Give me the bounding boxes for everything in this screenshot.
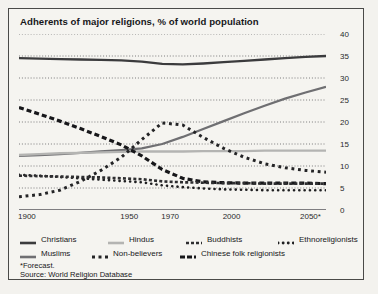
- y-axis-tick-label: 20: [340, 118, 349, 127]
- y-axis-tick-label: 25: [340, 96, 349, 105]
- legend-item: Chinese folk religionists: [180, 246, 285, 260]
- chart-canvas: [19, 34, 326, 210]
- chart-title: Adherents of major religions, % of world…: [20, 16, 259, 27]
- legend-label: Buddhists: [207, 235, 242, 244]
- y-axis-tick-label: 5: [340, 184, 344, 193]
- legend-label: Muslims: [41, 249, 70, 258]
- legend-swatch-icon: [20, 248, 36, 258]
- legend-item: Ethnoreligionists: [278, 232, 358, 246]
- x-axis-tick-label: 2000: [223, 212, 241, 221]
- chart-legend: ChristiansHindusBuddhistsEthnoreligionis…: [20, 232, 356, 260]
- legend-swatch-icon: [92, 248, 108, 258]
- legend-swatch-icon: [180, 248, 196, 258]
- legend-label: Ethnoreligionists: [299, 235, 358, 244]
- legend-row-2: MuslimsNon-believersChinese folk religio…: [20, 246, 356, 260]
- legend-item: Buddhists: [186, 232, 242, 246]
- legend-swatch-icon: [186, 234, 202, 244]
- series-line-christians: [19, 56, 326, 64]
- y-axis-tick-label: 10: [340, 162, 349, 171]
- series-line-chinese-folk-religionists: [19, 107, 326, 183]
- legend-item: Muslims: [20, 246, 70, 260]
- y-axis-tick-label: 15: [340, 140, 349, 149]
- legend-swatch-icon: [278, 234, 294, 244]
- plot-area: [19, 34, 326, 210]
- legend-item: Non-believers: [92, 246, 162, 260]
- legend-row-1: ChristiansHindusBuddhistsEthnoreligionis…: [20, 232, 356, 246]
- legend-item: Christians: [20, 232, 77, 246]
- footnote-source: Source: World Religion Database: [20, 270, 132, 279]
- footnote-forecast: *Forecast.: [20, 261, 55, 270]
- x-axis-tick-label: 2050*: [300, 212, 321, 221]
- x-axis-tick-label: 1900: [18, 212, 36, 221]
- series-line-buddhists: [19, 176, 326, 184]
- x-axis-tick-label: 1970: [161, 212, 179, 221]
- legend-label: Christians: [41, 235, 77, 244]
- y-axis-tick-label: 0: [340, 206, 344, 215]
- y-axis-tick-label: 30: [340, 74, 349, 83]
- y-axis-tick-label: 35: [340, 52, 349, 61]
- chart-figure: Adherents of major religions, % of world…: [0, 0, 378, 294]
- legend-swatch-icon: [20, 234, 36, 244]
- legend-swatch-icon: [108, 234, 124, 244]
- legend-label: Non-believers: [113, 249, 162, 258]
- legend-label: Chinese folk religionists: [201, 249, 285, 258]
- y-axis-tick-label: 40: [340, 30, 349, 39]
- x-axis-tick-label: 1950: [120, 212, 138, 221]
- legend-label: Hindus: [129, 235, 154, 244]
- legend-item: Hindus: [108, 232, 154, 246]
